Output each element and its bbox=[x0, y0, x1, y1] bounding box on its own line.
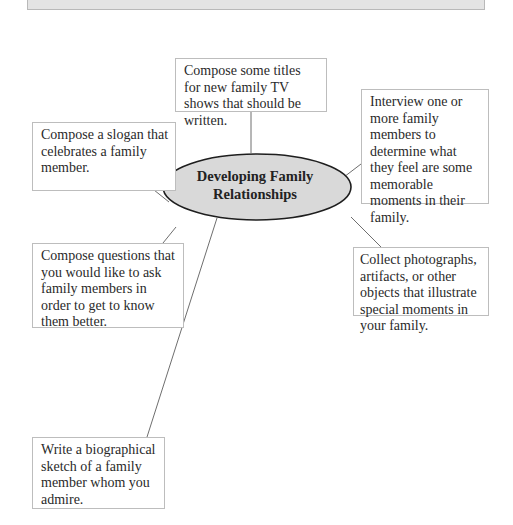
hub-label: Developing Family Relationships bbox=[161, 167, 349, 203]
node-collect: Collect photographs, artifacts, or other… bbox=[353, 247, 489, 316]
node-tv-titles: Compose some titles for new family TV sh… bbox=[175, 58, 327, 112]
node-questions: Compose questions that you would like to… bbox=[32, 243, 184, 328]
node-slogan: Compose a slogan that celebrates a famil… bbox=[32, 122, 176, 191]
node-biography: Write a biographical sketch of a family … bbox=[32, 437, 165, 509]
connector-questions bbox=[163, 227, 176, 243]
hub-label-line1: Developing Family bbox=[161, 167, 349, 185]
hub-label-line2: Relationships bbox=[161, 185, 349, 203]
node-interview: Interview one or more family members to … bbox=[361, 89, 489, 204]
